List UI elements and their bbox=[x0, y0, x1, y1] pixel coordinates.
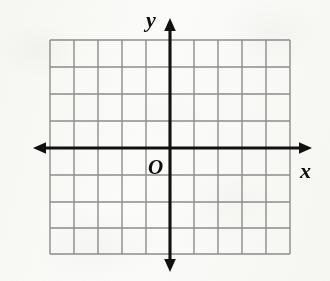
x-axis-arrow-right-icon bbox=[299, 142, 312, 154]
coordinate-plane-figure: y x O bbox=[0, 0, 330, 281]
x-axis-arrow-left-icon bbox=[33, 142, 46, 154]
y-axis-label: y bbox=[146, 9, 156, 31]
coordinate-plane-canvas bbox=[0, 0, 330, 281]
origin-label: O bbox=[148, 157, 163, 178]
y-axis-arrow-down-icon bbox=[164, 259, 176, 272]
x-axis-label: x bbox=[300, 160, 311, 182]
axes-group bbox=[33, 18, 312, 272]
y-axis-arrow-up-icon bbox=[164, 18, 176, 31]
